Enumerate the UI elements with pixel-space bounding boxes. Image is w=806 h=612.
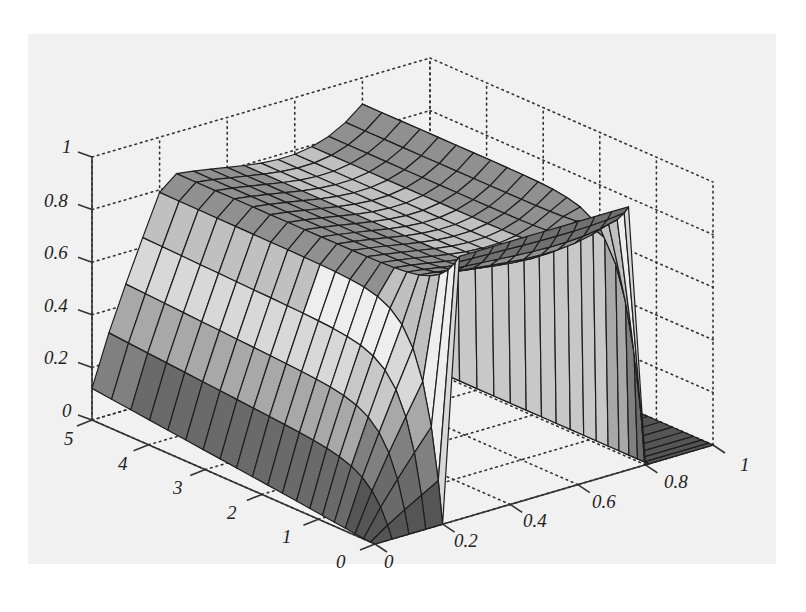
x-tick-label: 1	[740, 455, 750, 474]
y-tick-label: 0	[336, 552, 346, 571]
y-tick-label: 4	[118, 454, 128, 473]
y-tick-label: 3	[173, 478, 183, 497]
surface-plot-3d	[0, 0, 806, 612]
z-tick-label: 0.4	[44, 296, 68, 315]
z-tick-label: 0.2	[44, 348, 68, 367]
x-tick-label: 0.8	[664, 472, 688, 491]
y-tick-label: 2	[227, 503, 237, 522]
x-tick-label: 0.6	[592, 492, 616, 511]
y-tick-label: 1	[282, 527, 292, 546]
x-tick-label: 0.2	[454, 531, 478, 550]
z-tick-label: 1	[62, 137, 72, 156]
z-tick-label: 0.6	[44, 243, 68, 262]
z-tick-label: 0.8	[44, 191, 68, 210]
x-tick-label: 0.4	[523, 511, 547, 530]
surface-mesh	[92, 104, 713, 544]
y-tick-label: 5	[64, 429, 74, 448]
z-tick-label: 0	[62, 401, 72, 420]
x-tick-label: 0	[384, 552, 394, 571]
